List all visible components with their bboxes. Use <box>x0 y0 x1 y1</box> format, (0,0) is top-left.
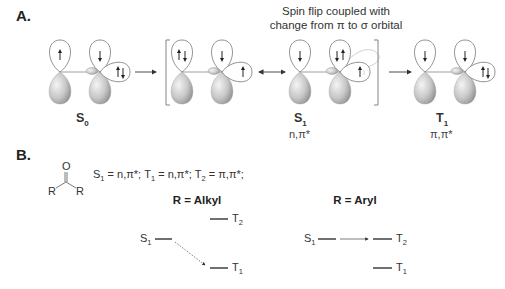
alkyl-t2-label: T2 <box>232 212 243 227</box>
aryl-t1-label: T1 <box>396 261 407 276</box>
left-bracket <box>166 40 170 105</box>
aryl-t2-label: T2 <box>396 232 407 247</box>
carbonyl-oxygen: O <box>62 160 71 172</box>
carbonyl-left-r: R <box>48 185 56 197</box>
alkyl-isc-arrow <box>175 242 205 265</box>
carbonyl-structure <box>56 172 76 188</box>
s0-molecule <box>49 40 130 104</box>
carbonyl-right-r: R <box>76 185 84 197</box>
state-assignment-equation: S1 = n,π*; T1 = n,π*; T2 = π,π*; <box>93 168 244 183</box>
spin-flip-caption: Spin flip coupled with change from π to … <box>236 4 436 32</box>
t1-molecule <box>414 40 495 104</box>
state-label-s1: S1 <box>294 111 307 128</box>
intermediate-molecule <box>171 40 252 104</box>
panel-a-label: A. <box>16 7 31 24</box>
s1-molecule <box>289 40 379 104</box>
state-label-t1: T1 <box>436 111 448 128</box>
caption-line-1: Spin flip coupled with <box>236 4 436 18</box>
aryl-title: R = Aryl <box>310 194 400 206</box>
s1-configuration: n,π* <box>289 128 310 140</box>
aryl-s1-label: S1 <box>304 232 316 247</box>
alkyl-t1-label: T1 <box>232 261 243 276</box>
t1-configuration: π,π* <box>430 128 453 140</box>
diagram-graphics <box>0 0 505 289</box>
right-bracket <box>374 40 378 105</box>
state-label-s0: S0 <box>76 111 89 128</box>
caption-line-2: change from π to σ orbital <box>236 18 436 32</box>
alkyl-title: R = Alkyl <box>152 194 242 206</box>
alkyl-s1-label: S1 <box>140 232 152 247</box>
panel-b-label: B. <box>16 146 31 163</box>
